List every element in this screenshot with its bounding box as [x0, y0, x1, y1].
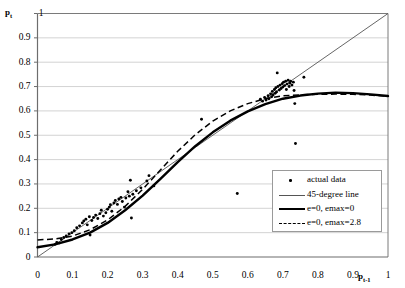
dot-marker-icon	[277, 173, 305, 188]
y-tick-label: 1	[18, 8, 44, 18]
x-tick-label: 0.9	[340, 270, 366, 280]
x-tick-label: 0.3	[130, 270, 156, 280]
legend-item-emax28: e=0, emax=2.8	[273, 216, 383, 231]
legend-item-45-degree-line: 45-degree line	[273, 188, 383, 203]
thick-line-icon	[277, 202, 305, 217]
y-tick-label: 0	[5, 252, 31, 262]
x-tick-label: 0.5	[200, 270, 226, 280]
y-tick-label: 0.5	[5, 130, 31, 140]
x-tick-label: 0.2	[95, 270, 121, 280]
legend-label-emax28: e=0, emax=2.8	[307, 217, 361, 227]
dashed-line-icon	[277, 216, 305, 231]
x-tick-label: 0	[25, 270, 51, 280]
y-tick-label: 0.7	[5, 81, 31, 91]
y-tick-label: 0.4	[5, 154, 31, 164]
x-tick-label: 0.8	[305, 270, 331, 280]
chart-figure: pt pt-1 00.10.20.30.40.50.60.70.80.91 00…	[0, 0, 405, 288]
y-tick-label: 0.8	[5, 57, 31, 67]
x-tick-label: 0.4	[165, 270, 191, 280]
plot-canvas	[0, 0, 405, 288]
legend-label-emax0: e=0, emax=0	[307, 203, 354, 213]
x-tick-label: 0.1	[60, 270, 86, 280]
y-tick-label: 0.6	[5, 105, 31, 115]
legend-item-actual-data: actual data	[273, 173, 383, 188]
legend-label-45-degree-line: 45-degree line	[307, 189, 359, 199]
y-tick-label: 0.3	[5, 178, 31, 188]
y-tick-label: 0.9	[5, 32, 31, 42]
chart-legend: actual data 45-degree line e=0, emax=0 e…	[272, 170, 382, 232]
x-tick-label: 0.6	[235, 270, 261, 280]
y-tick-label: 0.2	[5, 203, 31, 213]
x-tick-label: 1	[375, 270, 401, 280]
legend-label-actual-data: actual data	[307, 174, 346, 184]
y-tick-label: 0.1	[5, 227, 31, 237]
legend-item-emax0: e=0, emax=0	[273, 202, 383, 217]
thin-line-icon	[277, 188, 305, 203]
x-tick-label: 0.7	[270, 270, 296, 280]
y-axis-title: pt	[5, 7, 12, 19]
